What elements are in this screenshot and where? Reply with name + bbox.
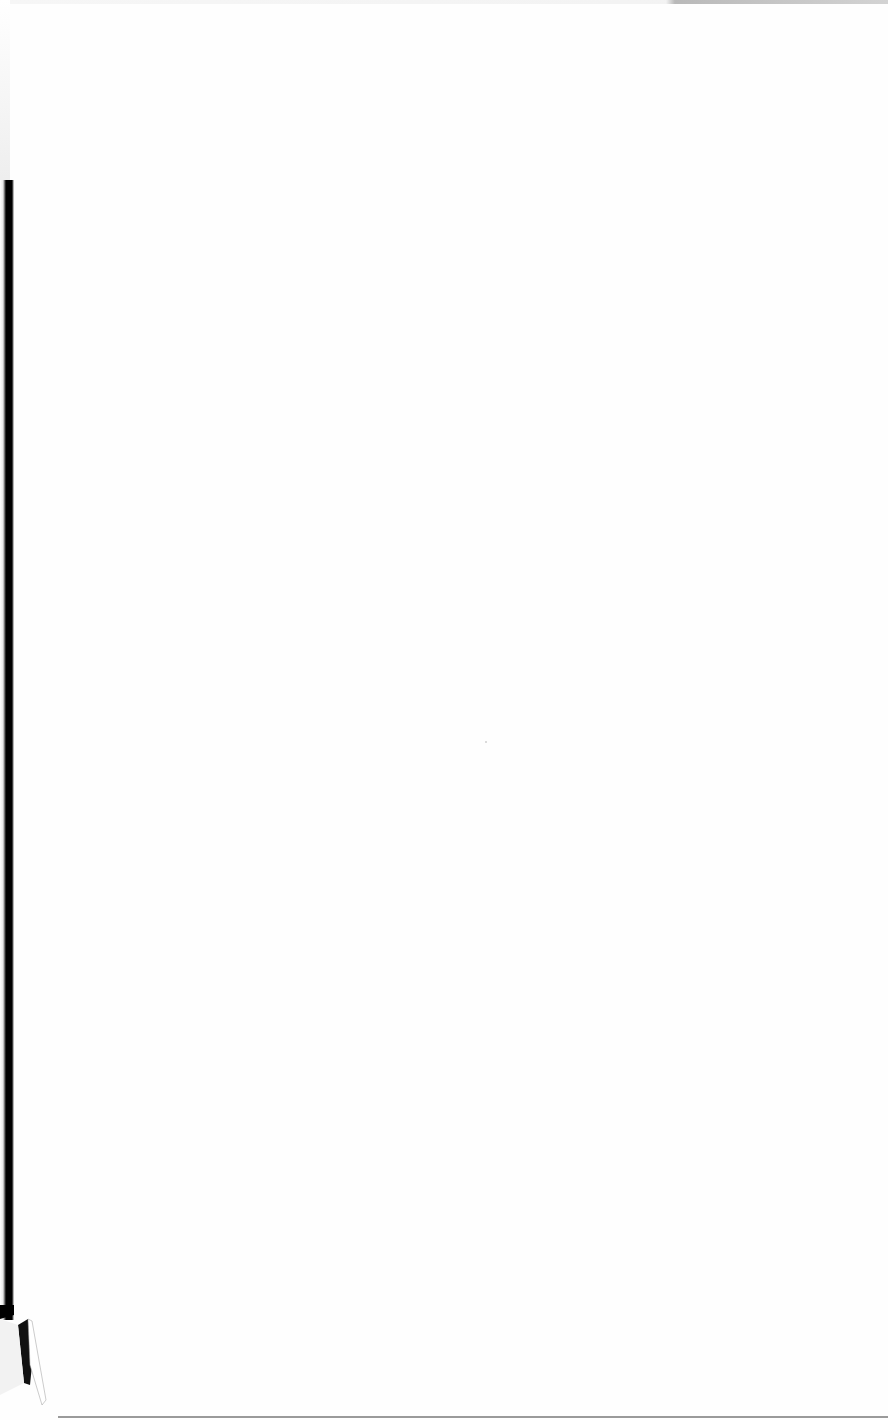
binding-shadow	[0, 180, 14, 1320]
binding-shadow-fade	[0, 0, 10, 200]
blank-page	[0, 0, 888, 1420]
corner-curl-artifact	[0, 1305, 60, 1420]
top-edge-strip	[0, 0, 888, 4]
bottom-edge-rule	[58, 1416, 888, 1418]
scan-speck	[485, 741, 487, 743]
